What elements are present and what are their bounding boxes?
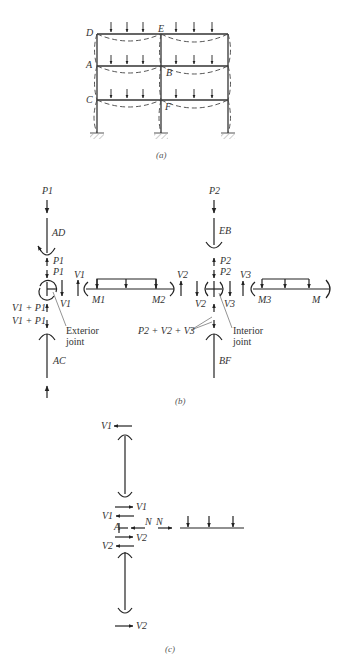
label-v2-mid: V2	[136, 533, 147, 543]
joint-label-c: C	[86, 95, 93, 105]
label-v1-top: V1	[101, 421, 112, 431]
label-m2: M2	[152, 295, 165, 305]
label-v2-beam: V2	[177, 270, 188, 280]
joint-label-a: A	[86, 60, 92, 70]
caption-c: (c)	[165, 644, 175, 654]
label-v2-bottom: V2	[136, 621, 147, 631]
label-v3-beam: V3	[240, 270, 251, 280]
interior-joint-note-1: Interior	[233, 325, 263, 336]
frame-diagram	[97, 34, 228, 133]
joint-label-f: F	[165, 102, 171, 112]
label-a: A	[114, 522, 120, 532]
label-v2-joint: V2	[195, 299, 206, 309]
label-member-bf: BF	[219, 356, 231, 366]
label-v1-left: V1	[102, 511, 113, 521]
caption-a: (a)	[156, 150, 167, 160]
exterior-joint-note-1: Exterior	[66, 325, 99, 336]
deflected-shape	[94, 34, 231, 133]
label-v1-joint: V1	[60, 299, 71, 309]
label-member-ac: AC	[53, 356, 66, 366]
label-n-right: N	[156, 517, 163, 527]
exterior-joint-note-2: joint	[66, 336, 84, 347]
column-shear-fbd	[114, 426, 244, 626]
figure-page: D E A B C F (a) P1 AD P1 P1 V1 V1 M1 M2 …	[0, 0, 346, 664]
label-n-left: N	[145, 517, 152, 527]
label-m1: M1	[92, 295, 105, 305]
caption-b: (b)	[175, 396, 186, 406]
fixed-supports	[90, 133, 235, 139]
joint-label-e: E	[158, 24, 164, 34]
interior-joint-fbd	[197, 200, 330, 378]
label-v1p1-a: V1 + P1	[12, 303, 46, 313]
label-p2-b: P2	[220, 267, 231, 277]
label-m: M	[312, 295, 320, 305]
label-p1-b: P1	[53, 267, 64, 277]
joint-label-b: B	[166, 68, 172, 78]
label-m3: M3	[258, 295, 271, 305]
label-v1-mid: V1	[136, 502, 147, 512]
label-member-eb: EB	[219, 226, 231, 236]
label-v1p1-b: V1 + P1	[12, 316, 46, 326]
label-p2-top: P2	[209, 186, 220, 196]
joint-label-d: D	[86, 28, 93, 38]
label-p1-a: P1	[53, 256, 64, 266]
label-v2-left: V2	[102, 541, 113, 551]
label-v3-joint: V3	[224, 299, 235, 309]
label-p2-a: P2	[220, 256, 231, 266]
label-member-ad: AD	[52, 228, 65, 238]
label-v1-beam: V1	[74, 270, 85, 280]
label-p1-top: P1	[42, 186, 53, 196]
label-p2v2v3: P2 + V2 + V3	[138, 326, 195, 336]
interior-joint-note-2: joint	[233, 336, 251, 347]
